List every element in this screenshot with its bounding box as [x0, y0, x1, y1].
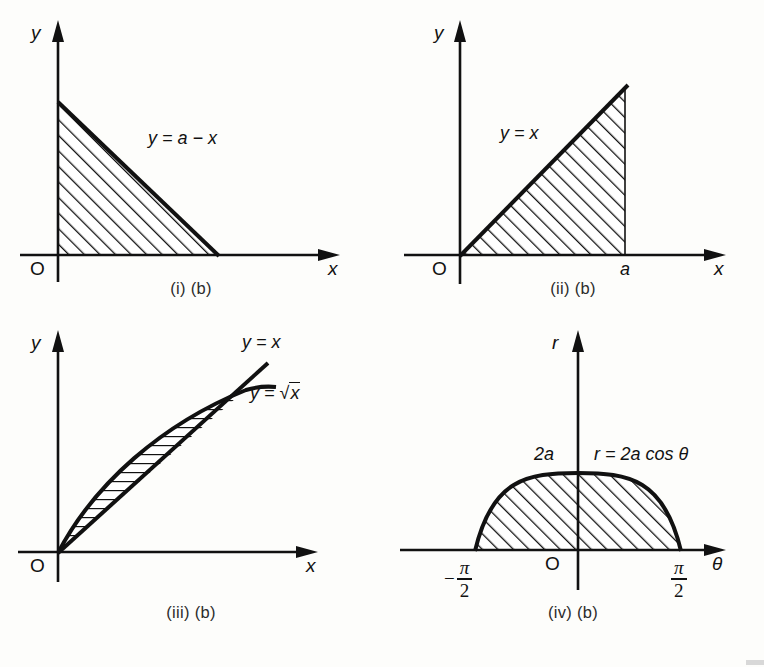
- figure-page: y x O y = a − x (i) (b): [0, 0, 764, 667]
- theta-tick-minus-pi-over-2-iv: − π 2: [444, 558, 472, 600]
- curve-label-line-iii: y = x: [242, 332, 281, 353]
- theta-tick-pi-over-2-iv: π 2: [671, 558, 687, 600]
- fraction-denominator: 2: [671, 580, 687, 600]
- curve-label-i: y = a − x: [148, 128, 217, 149]
- y-axis-arrow-i: [52, 20, 64, 42]
- panel-iv: r θ O 2a r = 2a cos θ − π 2 π 2: [382, 310, 764, 643]
- y-axis-label-ii: y: [434, 22, 444, 44]
- x-tick-label-a-ii: a: [620, 259, 630, 280]
- origin-label-ii: O: [432, 258, 447, 280]
- caption-iii: (iii) (b): [0, 603, 382, 622]
- fraction-denominator: 2: [457, 580, 473, 600]
- panel-iii-graph: [0, 310, 382, 610]
- theta-axis-label-iv: θ: [712, 553, 722, 575]
- curve-label-sqrt-prefix-iii: y =: [250, 383, 280, 403]
- y-axis-arrow-iii: [52, 330, 64, 352]
- x-axis-label-ii: x: [714, 258, 724, 280]
- panel-i-graph: [0, 0, 382, 300]
- sqrt-symbol-icon: √x: [280, 383, 301, 404]
- caption-ii: (ii) (b): [382, 279, 764, 298]
- y-axis-arrow-ii: [454, 20, 466, 42]
- peak-label-2a-iv: 2a: [534, 444, 554, 465]
- y-axis-label-iii: y: [31, 332, 41, 354]
- y-axis-label-i: y: [31, 22, 41, 44]
- curve-line-iii: [58, 363, 268, 553]
- panel-iv-graph: [382, 310, 764, 610]
- panel-ii-graph: [382, 0, 764, 300]
- origin-label-iv: O: [545, 553, 560, 575]
- origin-label-iii: O: [30, 555, 45, 577]
- r-axis-arrow-iv: [572, 330, 584, 352]
- page-edge-artifact: [746, 660, 764, 665]
- curve-label-sqrt-radicand-iii: x: [289, 382, 300, 403]
- fraction-numerator: π: [457, 558, 473, 578]
- caption-i: (i) (b): [0, 279, 382, 298]
- fraction-stack: π 2: [457, 558, 473, 600]
- panel-iii: y x O y = x y = √x: [0, 310, 382, 643]
- x-axis-label-iii: x: [306, 555, 316, 577]
- curve-label-ii: y = x: [500, 123, 539, 144]
- x-axis-label-i: x: [328, 258, 338, 280]
- caption-iv: (iv) (b): [382, 603, 764, 622]
- origin-label-i: O: [30, 258, 45, 280]
- r-axis-label-iv: r: [552, 332, 558, 354]
- curve-sqrt-iii: [58, 387, 276, 553]
- curve-label-iv: r = 2a cos θ: [594, 444, 688, 465]
- fraction-stack: π 2: [671, 558, 687, 600]
- curve-label-sqrt-iii: y = √x: [250, 383, 300, 404]
- minus-sign-icon: −: [444, 568, 455, 590]
- fraction-numerator: π: [671, 558, 687, 578]
